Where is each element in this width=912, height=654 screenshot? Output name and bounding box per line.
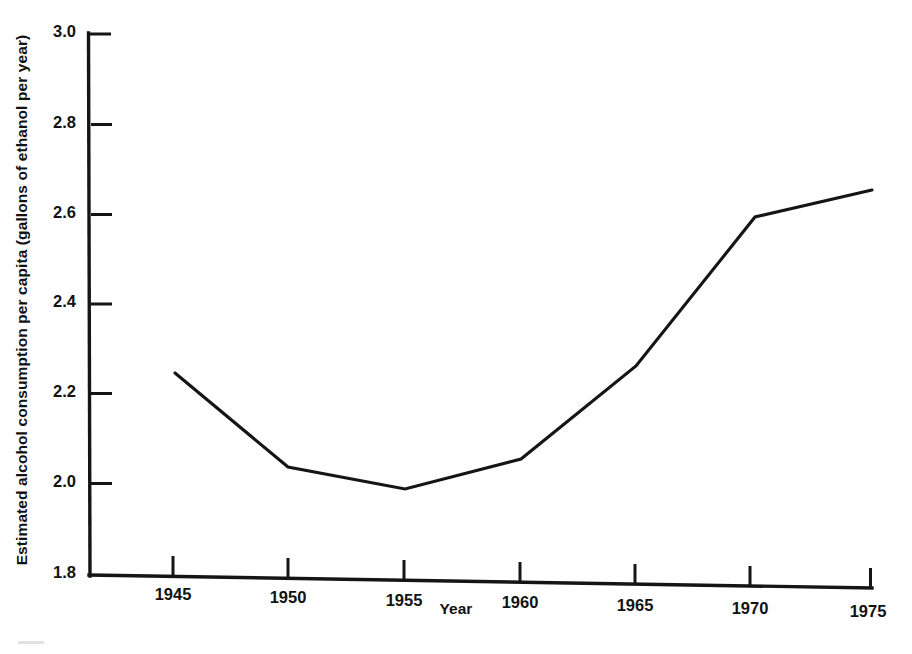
x-tick-label-1945: 1945	[138, 585, 208, 604]
x-tick-label-1970: 1970	[715, 599, 785, 618]
x-tick-label-1960: 1960	[485, 593, 555, 612]
caption-remnant-mark	[18, 641, 44, 644]
x-tick-label-1955: 1955	[369, 591, 439, 610]
figure-canvas: Estimated alcohol consumption per capita…	[0, 0, 912, 654]
y-tick-label-2-2: 2.2	[22, 382, 76, 401]
y-axis-spine	[89, 33, 91, 576]
x-tick-label-1975: 1975	[833, 602, 903, 621]
y-tick-label-3-0: 3.0	[22, 22, 76, 41]
y-tick-label-2-0: 2.0	[22, 472, 76, 491]
line-chart-plot	[0, 0, 912, 654]
y-tick-label-2-6: 2.6	[22, 203, 76, 222]
y-tick-label-1-8: 1.8	[22, 563, 76, 582]
y-tick-label-2-8: 2.8	[22, 113, 76, 132]
plot-background	[0, 0, 912, 654]
x-tick-label-1950: 1950	[253, 588, 323, 607]
x-tick-label-1965: 1965	[600, 596, 670, 615]
y-tick-label-2-4: 2.4	[22, 292, 76, 311]
